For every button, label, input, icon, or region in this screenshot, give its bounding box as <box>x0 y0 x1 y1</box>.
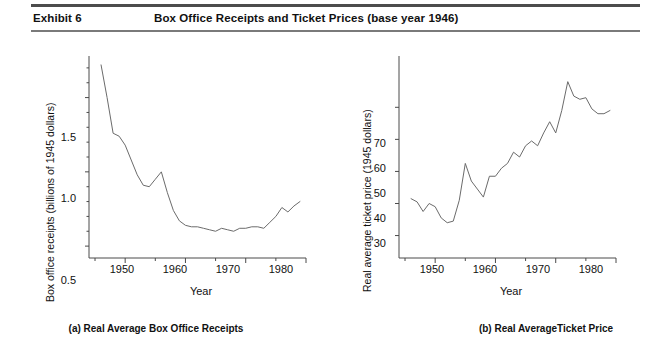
header-rule-bottom <box>31 30 640 32</box>
exhibit-label: Exhibit 6 <box>33 12 82 24</box>
header-rule-top <box>31 4 640 7</box>
panel-a-caption: (a) Real Average Box Office Receipts <box>36 323 276 334</box>
panel-b-caption: (b) Real AverageTicket Price <box>446 323 646 334</box>
exhibit-title: Box Office Receipts and Ticket Prices (b… <box>154 12 458 24</box>
panel-box-office-receipts: Box office receipts (billions of 1945 do… <box>6 40 336 342</box>
panel-b-plot <box>336 40 666 342</box>
panel-a-plot <box>6 40 336 342</box>
panel-ticket-price: Real average ticket price (1945 dollars)… <box>336 40 666 342</box>
exhibit-figure: Exhibit 6 Box Office Receipts and Ticket… <box>0 0 668 342</box>
